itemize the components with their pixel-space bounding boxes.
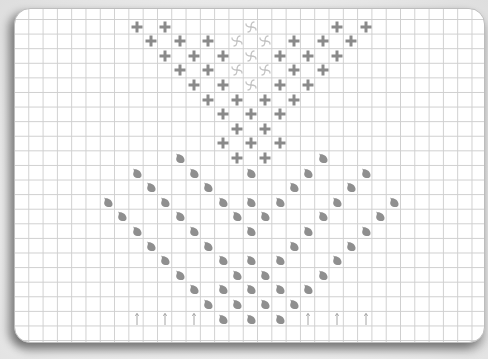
leaf-piece[interactable]	[273, 195, 287, 209]
leaf-piece[interactable]	[216, 195, 230, 209]
pinwheel-piece[interactable]	[258, 34, 272, 48]
cross-piece[interactable]	[230, 122, 244, 136]
leaf-piece[interactable]	[330, 253, 344, 267]
cross-piece[interactable]	[216, 49, 230, 63]
pinwheel-piece[interactable]	[244, 20, 258, 34]
leaf-piece[interactable]	[287, 297, 301, 311]
leaf-piece[interactable]	[258, 209, 272, 223]
game-board[interactable]	[14, 8, 485, 343]
leaf-piece[interactable]	[187, 166, 201, 180]
cross-piece[interactable]	[216, 136, 230, 150]
leaf-piece[interactable]	[144, 239, 158, 253]
leaf-piece[interactable]	[316, 209, 330, 223]
leaf-piece[interactable]	[173, 209, 187, 223]
leaf-piece[interactable]	[301, 282, 315, 296]
leaf-piece[interactable]	[387, 195, 401, 209]
leaf-piece[interactable]	[301, 224, 315, 238]
arrow-piece[interactable]	[158, 312, 172, 326]
pinwheel-piece[interactable]	[244, 78, 258, 92]
leaf-piece[interactable]	[359, 166, 373, 180]
cross-piece[interactable]	[301, 49, 315, 63]
leaf-piece[interactable]	[201, 297, 215, 311]
arrow-piece[interactable]	[359, 312, 373, 326]
leaf-piece[interactable]	[244, 224, 258, 238]
cross-piece[interactable]	[344, 34, 358, 48]
leaf-piece[interactable]	[287, 180, 301, 194]
leaf-piece[interactable]	[273, 312, 287, 326]
cross-piece[interactable]	[316, 63, 330, 77]
cross-piece[interactable]	[173, 63, 187, 77]
leaf-piece[interactable]	[216, 282, 230, 296]
cross-piece[interactable]	[173, 34, 187, 48]
leaf-piece[interactable]	[130, 224, 144, 238]
leaf-piece[interactable]	[216, 312, 230, 326]
leaf-piece[interactable]	[158, 253, 172, 267]
leaf-piece[interactable]	[258, 268, 272, 282]
arrow-piece[interactable]	[301, 312, 315, 326]
cross-piece[interactable]	[273, 78, 287, 92]
leaf-piece[interactable]	[244, 282, 258, 296]
cross-piece[interactable]	[258, 151, 272, 165]
cross-piece[interactable]	[201, 34, 215, 48]
leaf-piece[interactable]	[359, 224, 373, 238]
cross-piece[interactable]	[158, 20, 172, 34]
cross-piece[interactable]	[230, 151, 244, 165]
leaf-piece[interactable]	[201, 180, 215, 194]
cross-piece[interactable]	[330, 49, 344, 63]
pinwheel-piece[interactable]	[258, 63, 272, 77]
cross-piece[interactable]	[244, 136, 258, 150]
leaf-piece[interactable]	[244, 195, 258, 209]
leaf-piece[interactable]	[344, 239, 358, 253]
leaf-piece[interactable]	[187, 224, 201, 238]
leaf-piece[interactable]	[373, 209, 387, 223]
cross-piece[interactable]	[301, 78, 315, 92]
leaf-piece[interactable]	[158, 195, 172, 209]
leaf-piece[interactable]	[144, 180, 158, 194]
leaf-piece[interactable]	[201, 239, 215, 253]
leaf-piece[interactable]	[244, 253, 258, 267]
cross-piece[interactable]	[187, 49, 201, 63]
arrow-piece[interactable]	[187, 312, 201, 326]
arrow-piece[interactable]	[330, 312, 344, 326]
cross-piece[interactable]	[130, 20, 144, 34]
cross-piece[interactable]	[273, 49, 287, 63]
pinwheel-piece[interactable]	[230, 34, 244, 48]
leaf-piece[interactable]	[301, 166, 315, 180]
cross-piece[interactable]	[201, 93, 215, 107]
cross-piece[interactable]	[287, 93, 301, 107]
leaf-piece[interactable]	[130, 166, 144, 180]
leaf-piece[interactable]	[244, 312, 258, 326]
leaf-piece[interactable]	[216, 253, 230, 267]
arrow-piece[interactable]	[130, 312, 144, 326]
cross-piece[interactable]	[330, 20, 344, 34]
leaf-piece[interactable]	[230, 209, 244, 223]
cross-piece[interactable]	[230, 93, 244, 107]
leaf-piece[interactable]	[258, 297, 272, 311]
cross-piece[interactable]	[216, 78, 230, 92]
cross-piece[interactable]	[216, 107, 230, 121]
cross-piece[interactable]	[258, 93, 272, 107]
leaf-piece[interactable]	[115, 209, 129, 223]
cross-piece[interactable]	[316, 34, 330, 48]
cross-piece[interactable]	[273, 136, 287, 150]
cross-piece[interactable]	[258, 122, 272, 136]
leaf-piece[interactable]	[173, 268, 187, 282]
leaf-piece[interactable]	[344, 180, 358, 194]
leaf-piece[interactable]	[316, 268, 330, 282]
leaf-piece[interactable]	[101, 195, 115, 209]
leaf-piece[interactable]	[244, 166, 258, 180]
leaf-piece[interactable]	[187, 282, 201, 296]
cross-piece[interactable]	[158, 49, 172, 63]
pinwheel-piece[interactable]	[244, 49, 258, 63]
leaf-piece[interactable]	[273, 253, 287, 267]
leaf-piece[interactable]	[273, 282, 287, 296]
cross-piece[interactable]	[273, 107, 287, 121]
leaf-piece[interactable]	[316, 151, 330, 165]
cross-piece[interactable]	[187, 78, 201, 92]
leaf-piece[interactable]	[230, 268, 244, 282]
pinwheel-piece[interactable]	[230, 63, 244, 77]
cross-piece[interactable]	[244, 107, 258, 121]
cross-piece[interactable]	[144, 34, 158, 48]
leaf-piece[interactable]	[230, 297, 244, 311]
leaf-piece[interactable]	[173, 151, 187, 165]
